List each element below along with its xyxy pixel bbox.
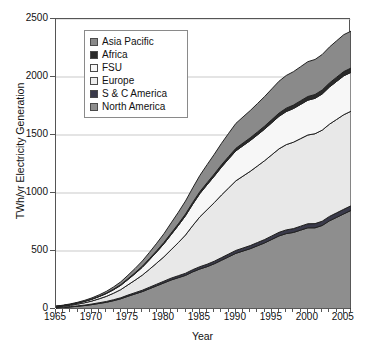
legend-swatch-icon bbox=[90, 103, 98, 111]
x-axis-tick-mark-major bbox=[271, 309, 272, 314]
x-axis-tick-mark-minor bbox=[300, 309, 301, 312]
x-axis-tick-mark-minor bbox=[120, 309, 121, 312]
legend-swatch-icon bbox=[90, 77, 98, 85]
x-axis-tick-mark-minor bbox=[105, 309, 106, 312]
y-axis-tick-label: 2000 bbox=[0, 71, 48, 81]
x-axis-tick-mark-minor bbox=[350, 309, 351, 312]
x-axis-tick-mark-major bbox=[199, 309, 200, 314]
legend-item: Africa bbox=[90, 48, 182, 61]
x-axis-tick-mark-minor bbox=[264, 309, 265, 312]
x-axis-tick-mark-minor bbox=[285, 309, 286, 312]
x-axis-tick-mark-major bbox=[163, 309, 164, 314]
x-axis-tick-mark-minor bbox=[242, 309, 243, 312]
x-axis-tick-mark-minor bbox=[213, 309, 214, 312]
chart-figure: TWh/yr Electricity Generation 0500100015… bbox=[0, 0, 369, 349]
x-axis-tick-mark-minor bbox=[192, 309, 193, 312]
legend-item-label: Asia Pacific bbox=[102, 37, 154, 47]
x-axis-tick-mark-minor bbox=[77, 309, 78, 312]
y-axis-title: TWh/yr Electricity Generation bbox=[14, 51, 26, 251]
y-axis-tick-label: 1000 bbox=[0, 187, 48, 197]
x-axis-tick-mark-major bbox=[55, 309, 56, 314]
legend-swatch-icon bbox=[90, 64, 98, 72]
x-axis-tick-mark-minor bbox=[177, 309, 178, 312]
x-axis-tick-mark-minor bbox=[336, 309, 337, 312]
x-axis-tick-mark-major bbox=[91, 309, 92, 314]
legend-item: Europe bbox=[90, 74, 182, 87]
legend-item: North America bbox=[90, 100, 182, 113]
legend-item-label: Africa bbox=[102, 50, 128, 60]
y-axis-tick-label: 2500 bbox=[0, 13, 48, 23]
y-axis-tick-label: 500 bbox=[0, 245, 48, 255]
x-axis-tick-mark-minor bbox=[62, 309, 63, 312]
x-axis-tick-mark-minor bbox=[328, 309, 329, 312]
x-axis-tick-mark-minor bbox=[321, 309, 322, 312]
legend-item-label: North America bbox=[102, 102, 165, 112]
x-axis-title: Year bbox=[55, 330, 350, 342]
x-axis-tick-mark-minor bbox=[249, 309, 250, 312]
x-axis-tick-mark-minor bbox=[170, 309, 171, 312]
legend-item-label: FSU bbox=[102, 63, 122, 73]
x-axis-tick-mark-minor bbox=[134, 309, 135, 312]
chart-legend: Asia PacificAfricaFSUEuropeS & C America… bbox=[84, 30, 188, 118]
x-axis-tick-mark-minor bbox=[228, 309, 229, 312]
legend-swatch-icon bbox=[90, 51, 98, 59]
legend-item: Asia Pacific bbox=[90, 35, 182, 48]
x-axis-tick-mark-major bbox=[235, 309, 236, 314]
x-axis-tick-mark-minor bbox=[256, 309, 257, 312]
x-axis-tick-mark-minor bbox=[69, 309, 70, 312]
x-axis-tick-mark-minor bbox=[206, 309, 207, 312]
x-axis-tick-mark-minor bbox=[113, 309, 114, 312]
x-axis-tick-mark-minor bbox=[292, 309, 293, 312]
x-axis-tick-mark-minor bbox=[156, 309, 157, 312]
x-axis-tick-mark-minor bbox=[314, 309, 315, 312]
legend-swatch-icon bbox=[90, 38, 98, 46]
x-axis-tick-mark-major bbox=[127, 309, 128, 314]
legend-item-label: S & C America bbox=[102, 89, 167, 99]
legend-swatch-icon bbox=[90, 90, 98, 98]
x-axis-tick-mark-minor bbox=[149, 309, 150, 312]
legend-item: S & C America bbox=[90, 87, 182, 100]
legend-item: FSU bbox=[90, 61, 182, 74]
x-axis-tick-mark-minor bbox=[141, 309, 142, 312]
x-axis-tick-mark-major bbox=[343, 309, 344, 314]
x-axis-tick-mark-minor bbox=[84, 309, 85, 312]
x-axis-tick-mark-minor bbox=[185, 309, 186, 312]
x-axis-tick-mark-major bbox=[307, 309, 308, 314]
y-axis-tick-label: 1500 bbox=[0, 129, 48, 139]
legend-item-label: Europe bbox=[102, 76, 134, 86]
x-axis-tick-mark-minor bbox=[220, 309, 221, 312]
x-axis-tick-mark-minor bbox=[98, 309, 99, 312]
x-axis-tick-mark-minor bbox=[278, 309, 279, 312]
